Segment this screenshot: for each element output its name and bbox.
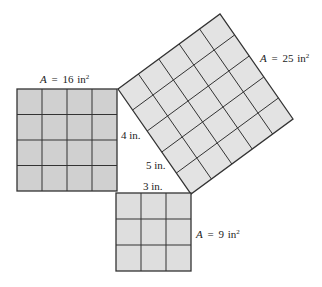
pythagorean-diagram: A = 16 in2 A = 25 in2 A = 9 in2 4 in. 5 … <box>0 0 322 287</box>
side-label-3: 3 in. <box>143 180 163 192</box>
area-label-16: A = 16 in2 <box>39 73 90 85</box>
square-5x5 <box>118 14 293 194</box>
side-label-4: 4 in. <box>121 129 141 141</box>
side-label-5: 5 in. <box>146 159 166 171</box>
square-4x4 <box>17 89 117 191</box>
area-label-25: A = 25 in2 <box>259 52 310 64</box>
area-label-9: A = 9 in2 <box>195 228 240 240</box>
square-3x3 <box>116 193 191 271</box>
